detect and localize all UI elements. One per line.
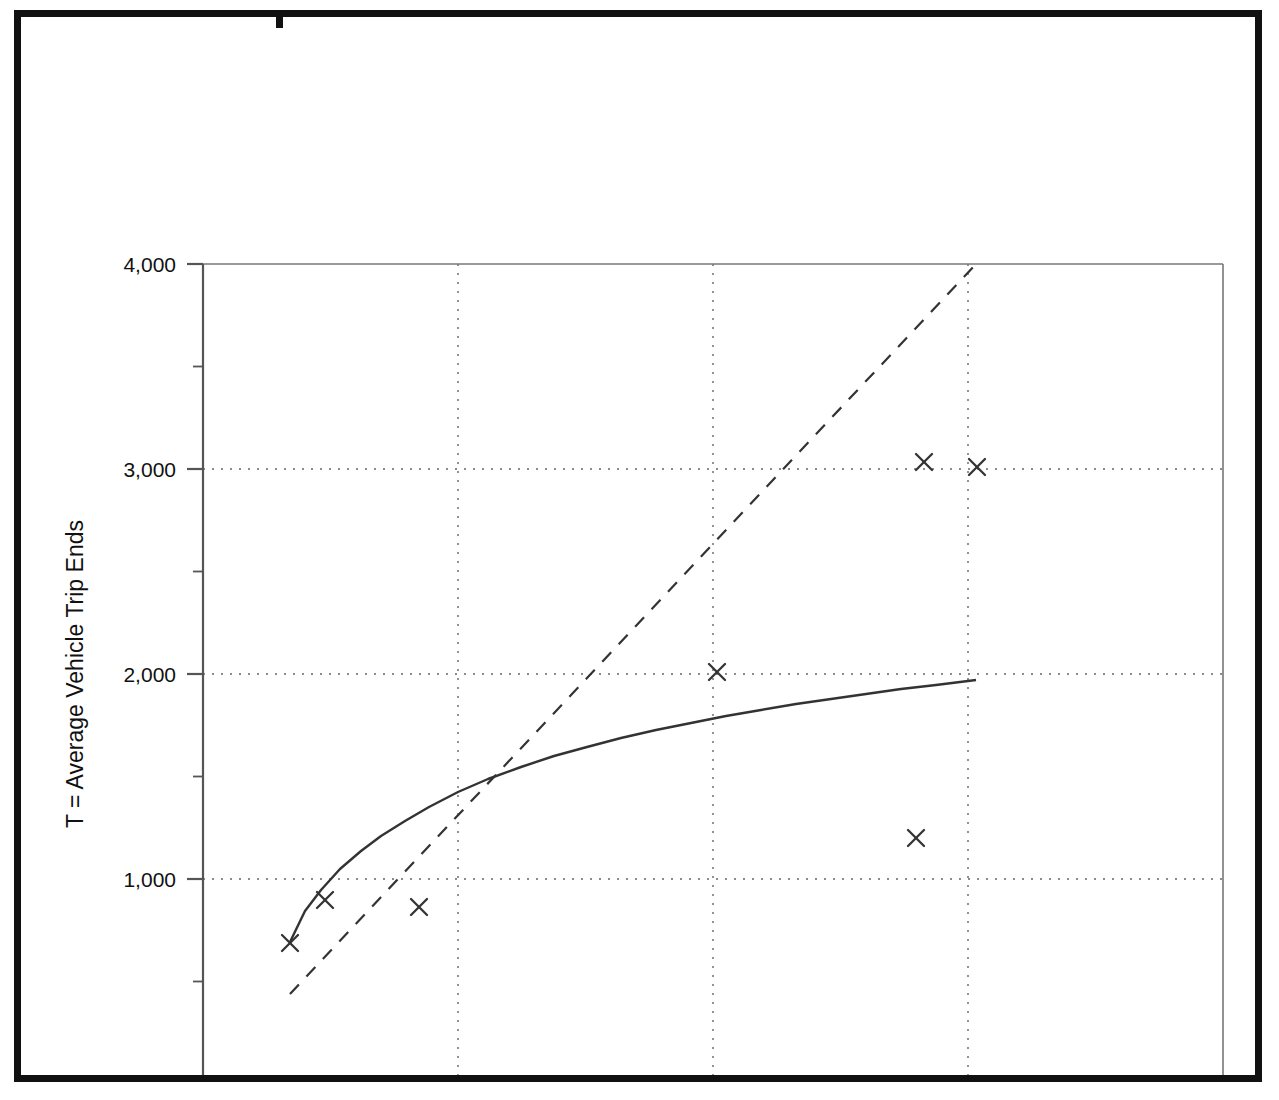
- figure-frame: 4,000 3,000 2,000 1,000 0 0 100 200 300 …: [14, 10, 1262, 1082]
- y-tick-label-3000: 3,000: [123, 458, 176, 481]
- data-point-marker: [282, 935, 298, 951]
- data-point-marker: [916, 454, 932, 470]
- y-tick-label-2000: 2,000: [123, 663, 176, 686]
- data-point-marker: [411, 899, 427, 915]
- data-point-marker: [317, 892, 333, 908]
- data-point-marker: [908, 830, 924, 846]
- y-axis-title: T = Average Vehicle Trip Ends: [62, 520, 88, 828]
- y-axis-major-ticks: [187, 264, 203, 1075]
- gridlines-horizontal: [203, 469, 1223, 879]
- y-tick-label-0: 0: [164, 1073, 176, 1075]
- y-tick-label-4000: 4,000: [123, 253, 176, 276]
- fitted-curve-line: [290, 680, 976, 942]
- data-points-group: [282, 454, 985, 951]
- y-tick-label-1000: 1,000: [123, 868, 176, 891]
- data-point-marker: [709, 664, 725, 680]
- average-rate-line: [290, 264, 976, 994]
- data-point-marker: [969, 459, 985, 475]
- scatter-chart: 4,000 3,000 2,000 1,000 0 0 100 200 300 …: [21, 17, 1255, 1075]
